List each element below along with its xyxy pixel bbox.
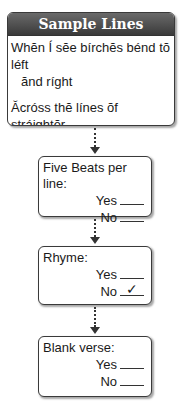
option-label: Yes [96,193,117,208]
option-yes: Yes [43,192,147,209]
question-box-five-beats: Five Beats per line: Yes No [38,156,152,217]
answer-blank-no[interactable] [120,209,144,222]
option-label: Yes [96,357,117,372]
sample-line-continuation: ănd ríght [11,73,171,90]
question-box-blank-verse: Blank verse: Yes No [38,336,152,397]
answer-blank-yes[interactable] [120,192,144,205]
sample-line: Ăcróss thĕ línes ŏf stráightĕr dárkĕr tr… [11,99,171,126]
sample-lines-body: Whĕn Í sĕe bírchĕs bénd tŏ léft ănd rígh… [8,36,174,126]
answer-blank-yes[interactable] [120,356,144,369]
option-label: No [100,210,117,225]
checkmark-icon: ✓ [126,282,138,296]
option-no: No✓ [43,283,147,300]
question-box-rhyme: Rhyme: Yes No✓ [38,246,152,305]
question-title: Five Beats per line: [43,160,147,192]
option-label: No [100,374,117,389]
option-label: No [100,284,117,299]
arrow-down-icon [90,147,100,154]
arrow-down-icon [90,237,100,244]
answer-blank-yes[interactable] [120,266,144,279]
sample-line: Whĕn Í sĕe bírchĕs bénd tŏ léft ănd rígh… [11,39,171,90]
answer-blank-no[interactable] [120,373,144,386]
option-label: Yes [96,267,117,282]
answer-blank-no[interactable]: ✓ [120,283,144,296]
sample-line-text: Whĕn Í sĕe bírchĕs bénd tŏ léft [11,40,170,72]
option-no: No [43,373,147,390]
question-title: Blank verse: [43,340,147,356]
question-title: Rhyme: [43,250,147,266]
sample-line-text: Ăcróss thĕ línes ŏf stráightĕr [11,100,118,126]
sample-lines-header: Sample Lines [8,13,174,36]
dotted-connector [94,128,96,147]
arrow-down-icon [90,327,100,334]
dotted-connector [94,307,96,327]
sample-lines-box: Sample Lines Whĕn Í sĕe bírchĕs bénd tŏ … [7,12,175,126]
dotted-connector [94,219,96,237]
option-yes: Yes [43,356,147,373]
